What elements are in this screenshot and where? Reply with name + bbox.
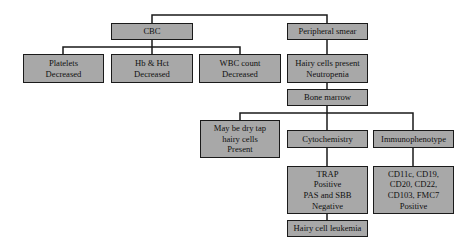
node-label: Platelets: [49, 58, 78, 69]
node-cbc: CBC: [111, 23, 193, 40]
node-hairy-cell-leukemia: Hairy cell leukemia: [287, 220, 368, 237]
node-label: Peripheral smear: [299, 26, 357, 37]
node-platelets: Platelets Decreased: [23, 54, 104, 83]
node-label: Hairy cell leukemia: [294, 223, 362, 234]
node-label: Bone marrow: [304, 92, 351, 103]
node-label: Cytochemistry: [302, 134, 353, 145]
node-peripheral-smear: Peripheral smear: [287, 23, 368, 40]
node-label: Hb & Hct: [135, 58, 169, 69]
node-label: CBC: [143, 26, 160, 37]
node-label: Present: [227, 144, 252, 155]
node-label: Positive: [400, 201, 428, 212]
node-label: Neutropenia: [306, 69, 348, 80]
node-label: Decreased: [46, 69, 82, 80]
node-label: Decreased: [222, 69, 258, 80]
node-label: TRAP: [317, 169, 339, 180]
hairy-cell-leukemia-flowchart: CBC Peripheral smear Platelets Decreased…: [0, 0, 474, 251]
node-hb-hct: Hb & Hct Decreased: [111, 54, 193, 83]
node-label: CD103, FMC7: [388, 190, 440, 201]
connector-cbc-smear: [152, 15, 327, 23]
node-cytochemistry: Cytochemistry: [287, 130, 368, 148]
node-label: hairy cells: [222, 134, 258, 145]
node-cd-markers: CD11c, CD19, CD20, CD22, CD103, FMC7 Pos…: [373, 166, 454, 214]
node-trap: TRAP Positive PAS and SBB Negative: [287, 166, 368, 214]
node-label: Decreased: [134, 69, 170, 80]
node-label: Positive: [314, 179, 342, 190]
node-label: May be dry tap: [214, 123, 266, 134]
node-hairy-cells-present: Hairy cells present Neutropenia: [287, 54, 368, 83]
node-immunophenotype: Immunophenotype: [373, 130, 454, 148]
node-label: Immunophenotype: [381, 134, 446, 145]
node-wbc-count: WBC count Decreased: [199, 54, 281, 83]
node-label: Negative: [312, 201, 343, 212]
node-label: WBC count: [220, 58, 261, 69]
node-label: PAS and SBB: [304, 190, 352, 201]
node-label: CD20, CD22,: [390, 179, 438, 190]
node-bone-marrow: Bone marrow: [287, 89, 368, 106]
node-dry-tap: May be dry tap hairy cells Present: [200, 120, 280, 158]
node-label: CD11c, CD19,: [388, 169, 439, 180]
node-label: Hairy cells present: [295, 58, 359, 69]
